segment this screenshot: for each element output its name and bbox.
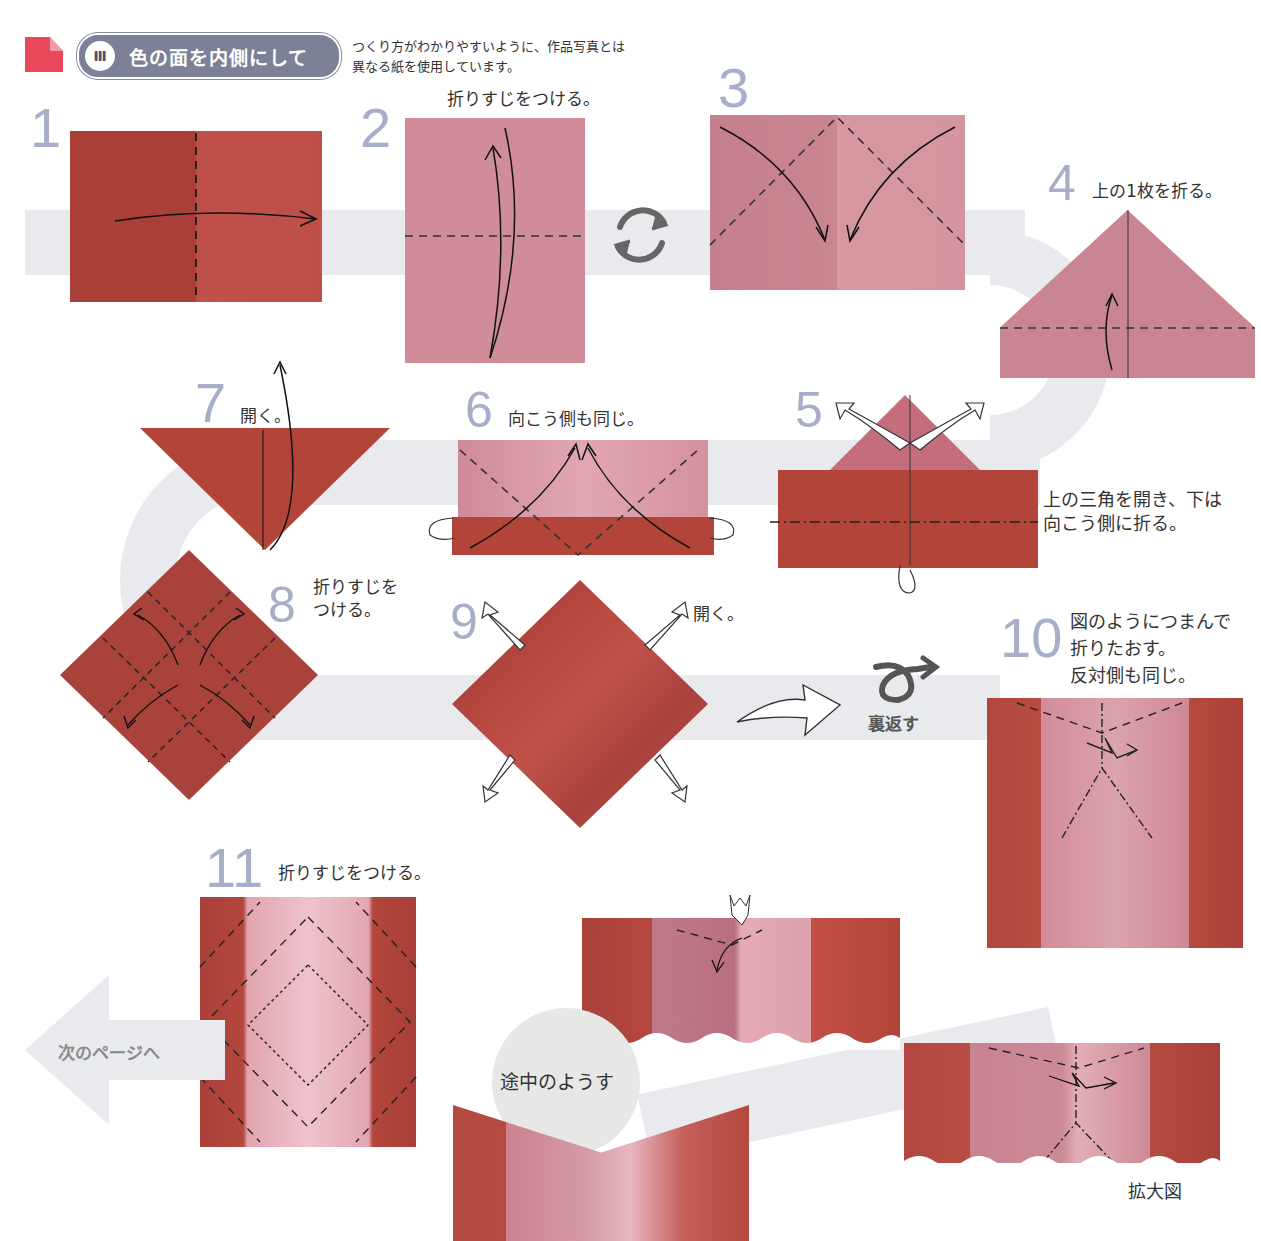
step-2-caption: 折りすじをつける。 — [447, 88, 600, 111]
step-10-caption: 図のようにつまんで 折りたおす。 反対側も同じ。 — [1070, 608, 1231, 689]
step-11-caption: 折りすじをつける。 — [278, 862, 431, 885]
step-10-number: 10 — [1000, 610, 1062, 666]
section-title-badge: Ⅲ 色の面を内側にして — [77, 33, 341, 79]
step-6-caption: 向こう側も同じ。 — [508, 408, 644, 431]
step-4-caption: 上の1枚を折る。 — [1092, 180, 1222, 203]
enlarged-view-lines — [904, 1043, 1220, 1178]
folded-corner-icon — [25, 37, 63, 72]
step-2-number: 2 — [360, 100, 391, 156]
step-8-caption: 折りすじを つける。 — [313, 576, 398, 622]
flow-arrow — [735, 680, 845, 740]
step-6-number: 6 — [465, 385, 493, 435]
step-10-diagram — [987, 698, 1243, 948]
step-1-diagram — [70, 131, 322, 302]
paper-note: つくり方がわかりやすいように、作品写真とは 異なる紙を使用しています。 — [352, 37, 625, 77]
step-4-number: 4 — [1048, 158, 1076, 208]
flip-over-label: 裏返す — [868, 713, 919, 736]
step-6-diagram — [420, 430, 750, 560]
step-3-diagram — [710, 115, 965, 290]
rotate-icon — [606, 205, 676, 267]
step-9-caption: 開く。 — [693, 603, 744, 626]
step-1-number: 1 — [30, 100, 61, 156]
step-7-diagram — [140, 360, 390, 555]
next-page-label[interactable]: 次のページへ — [58, 1042, 160, 1065]
pinch-detail-top-lines — [582, 890, 900, 1050]
in-progress-label: 途中のようす — [500, 1070, 614, 1096]
step-11-number: 11 — [205, 840, 263, 896]
step-5-caption: 上の三角を開き、下は 向こう側に折る。 — [1043, 488, 1222, 537]
step-3-number: 3 — [718, 60, 749, 116]
step-4-diagram — [1000, 210, 1255, 378]
folded-corner-flap — [50, 37, 63, 51]
enlarged-view-label: 拡大図 — [1128, 1180, 1182, 1204]
section-number: Ⅲ — [85, 41, 115, 71]
step-5-diagram — [770, 395, 1050, 595]
section-title: 色の面を内側にして — [129, 43, 308, 70]
flip-over-icon — [868, 655, 943, 710]
step-2-diagram — [405, 118, 585, 363]
open-arrows — [470, 590, 700, 820]
step-11-diagram — [200, 897, 416, 1147]
step-8-diagram — [60, 550, 318, 800]
